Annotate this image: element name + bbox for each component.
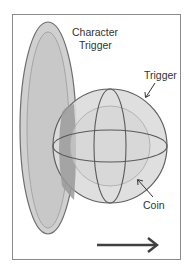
character-trigger-label-line2: Trigger (79, 39, 112, 51)
trigger-sphere (53, 89, 167, 203)
trigger-label: Trigger (144, 69, 177, 81)
trigger-diagram: Character Trigger Trigger Coin (0, 0, 189, 273)
character-trigger-label-line1: Character (72, 26, 119, 38)
coin-label: Coin (143, 199, 165, 211)
coin-sphere (70, 106, 150, 186)
